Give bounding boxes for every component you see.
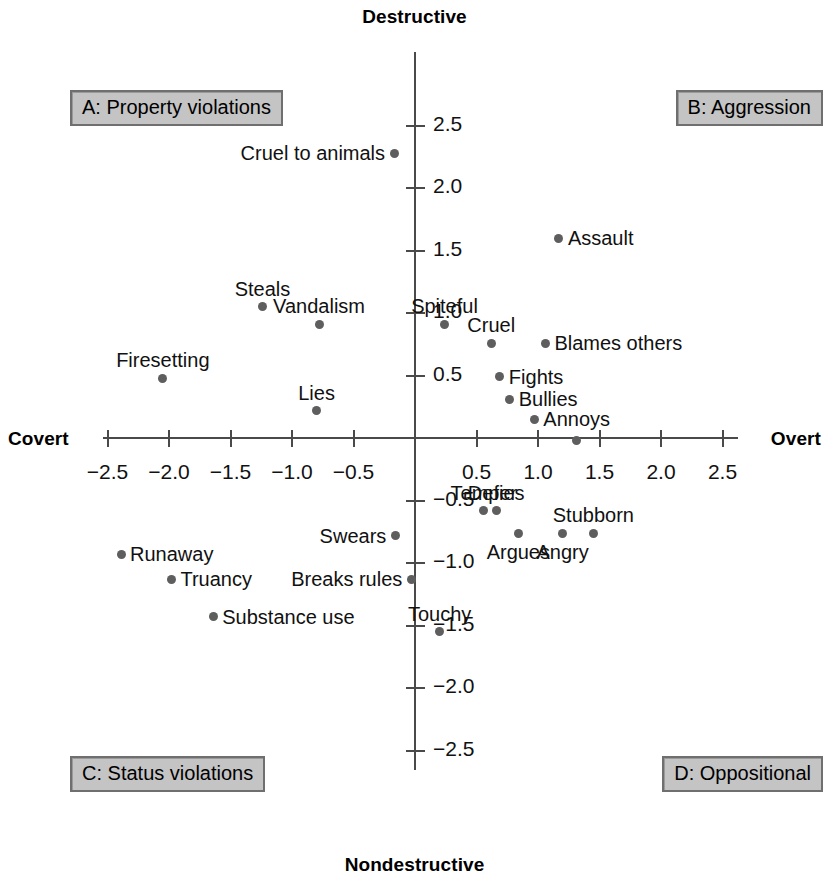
y-tick-mark: [406, 562, 425, 564]
y-tick-label: −2.0: [433, 674, 474, 698]
data-point-label: Substance use: [222, 605, 354, 628]
axis-label-nondestructive: Nondestructive: [0, 854, 829, 876]
data-point-label: Angry: [536, 541, 588, 564]
x-tick-label: −2.5: [87, 460, 128, 484]
x-tick-label: −1.0: [271, 460, 312, 484]
data-point-label: Fights: [509, 365, 563, 388]
data-point-label: Touchy: [408, 603, 471, 626]
data-point-label: Breaks rules: [291, 568, 402, 591]
data-point: [312, 406, 321, 415]
data-point-label: Defies: [468, 482, 525, 505]
y-tick-label: −2.5: [433, 737, 474, 761]
axis-label-overt: Overt: [771, 428, 821, 450]
data-point: [541, 339, 550, 348]
data-point: [495, 372, 504, 381]
x-tick-mark: [107, 430, 109, 447]
data-point: [530, 415, 539, 424]
quadrant-label-d: D: Oppositional: [662, 756, 823, 792]
data-point-label: Blames others: [554, 332, 682, 355]
data-point: [391, 531, 400, 540]
y-tick-label: −1.0: [433, 549, 474, 573]
data-point: [479, 506, 488, 515]
quadrant-label-a: A: Property violations: [70, 90, 283, 126]
y-tick-label: 1.5: [433, 237, 462, 261]
quadrant-label-c: C: Status violations: [70, 756, 265, 792]
x-tick-label: 2.5: [708, 460, 737, 484]
y-tick-mark: [406, 125, 425, 127]
x-tick-mark: [722, 430, 724, 447]
x-tick-mark: [599, 430, 601, 447]
data-point-label: Runaway: [130, 543, 213, 566]
data-point-label: Assault: [568, 227, 634, 250]
data-point-label: Lies: [298, 382, 335, 405]
axis-label-destructive: Destructive: [0, 6, 829, 28]
data-point: [117, 550, 126, 559]
x-tick-mark: [660, 430, 662, 447]
x-tick-label: 1.0: [523, 460, 552, 484]
y-tick-mark: [406, 375, 425, 377]
data-point-label: Truancy: [180, 568, 252, 591]
data-point-label: Stubborn: [553, 504, 634, 527]
x-tick-mark: [230, 430, 232, 447]
data-point-label: Cruel to animals: [241, 142, 386, 165]
x-tick-label: 1.5: [585, 460, 614, 484]
x-axis-line: [103, 437, 738, 439]
data-point: [514, 529, 523, 538]
data-point: [554, 234, 563, 243]
x-tick-mark: [476, 430, 478, 447]
y-tick-mark: [406, 250, 425, 252]
y-tick-label: 0.5: [433, 362, 462, 386]
x-tick-label: 2.0: [646, 460, 675, 484]
x-tick-label: −2.0: [148, 460, 189, 484]
axis-label-covert: Covert: [8, 428, 69, 450]
x-tick-mark: [353, 430, 355, 447]
x-tick-label: −0.5: [333, 460, 374, 484]
data-point: [209, 612, 218, 621]
x-tick-label: −1.5: [210, 460, 251, 484]
data-point: [158, 374, 167, 383]
y-tick-label: 2.0: [433, 174, 462, 198]
data-point: [589, 529, 598, 538]
data-point: [407, 575, 416, 584]
scatter-plot-figure: Destructive Nondestructive Covert Overt …: [0, 0, 829, 886]
data-point: [492, 506, 501, 515]
y-tick-mark: [406, 187, 425, 189]
x-tick-label: 0.5: [462, 460, 491, 484]
y-tick-mark: [406, 687, 425, 689]
data-point: [315, 320, 324, 329]
data-point: [505, 395, 514, 404]
data-point: [558, 529, 567, 538]
data-point-label: Annoys: [543, 408, 610, 431]
y-tick-mark: [406, 500, 425, 502]
quadrant-label-b: B: Aggression: [676, 90, 823, 126]
data-point: [390, 149, 399, 158]
y-tick-mark: [406, 750, 425, 752]
y-tick-label: 2.5: [433, 112, 462, 136]
x-tick-mark: [291, 430, 293, 447]
data-point: [440, 320, 449, 329]
data-point: [167, 575, 176, 584]
data-point: [258, 302, 267, 311]
x-tick-mark: [537, 430, 539, 447]
data-point-label: Firesetting: [116, 349, 209, 372]
data-point: [487, 339, 496, 348]
x-tick-mark: [168, 430, 170, 447]
data-point-label: Cruel: [467, 314, 515, 337]
data-point-label: Swears: [320, 524, 387, 547]
data-point: [572, 436, 581, 445]
y-axis-line: [414, 52, 416, 770]
data-point-label: Vandalism: [273, 295, 365, 318]
